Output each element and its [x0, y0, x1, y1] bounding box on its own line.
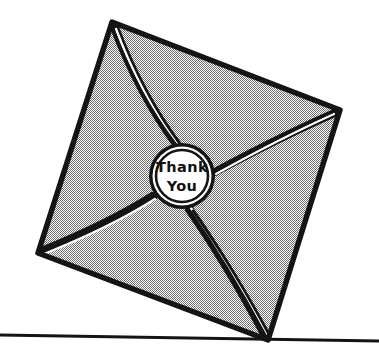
thank-you-seal: Thank You: [149, 143, 215, 209]
thank-you-envelope-illustration: Thank You: [0, 0, 379, 361]
seal-line-1: Thank: [156, 159, 208, 175]
seal-line-2: You: [166, 178, 198, 194]
illustration-canvas: Thank You: [0, 0, 379, 361]
